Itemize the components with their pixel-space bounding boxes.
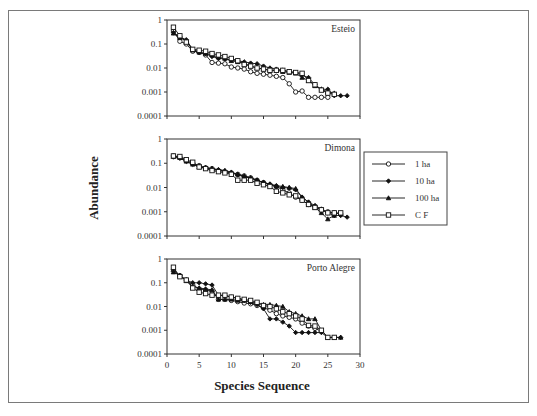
data-point-marker [255,181,259,185]
x-tick-label: 15 [259,360,269,370]
data-point-marker [171,25,175,29]
data-point-marker [268,73,272,77]
data-point-marker [191,47,195,51]
data-point-marker [326,95,330,99]
data-point-marker [281,191,285,195]
data-point-marker [287,193,291,197]
legend-label: C F [415,210,428,220]
data-point-marker [313,205,317,209]
y-tick-label: 0.0001 [137,349,162,359]
data-point-marker [306,323,310,327]
data-point-marker [293,194,297,198]
data-point-marker [216,61,220,65]
data-point-marker [223,62,227,66]
data-point-marker [300,71,304,75]
data-point-marker [326,91,330,95]
data-point-marker [178,274,182,278]
y-tick-label: 0.1 [151,278,162,288]
y-tick-label: 0.0001 [137,111,162,121]
y-tick-label: 0.001 [142,325,162,335]
x-tick-label: 5 [197,360,202,370]
y-tick-label: 0.01 [146,302,162,312]
y-tick-label: 0.0001 [137,231,162,241]
data-point-marker [229,172,233,176]
x-tick-label: 30 [356,360,366,370]
data-point-marker [268,68,272,72]
data-point-marker [326,335,330,339]
x-axis-label: Species Sequence [214,378,310,393]
data-point-marker [287,82,291,86]
data-point-marker [332,92,336,96]
data-point-marker [229,56,233,60]
data-point-marker [261,183,265,187]
data-point-marker [261,72,265,76]
data-point-marker [236,296,240,300]
data-point-marker [236,66,240,70]
legend-marker [386,162,390,166]
data-point-marker [210,51,214,55]
data-point-marker [236,178,240,182]
data-point-marker [178,34,182,38]
data-point-marker [300,198,304,202]
data-point-marker [281,68,285,72]
data-point-marker [306,78,310,82]
data-point-marker [191,286,195,290]
panel-title: Porto Alegre [307,263,355,273]
y-tick-label: 0.1 [151,39,162,49]
data-point-marker [268,184,272,188]
data-point-marker [197,48,201,52]
y-tick-label: 0.001 [142,207,162,217]
data-point-marker [306,202,310,206]
panel-dimona: 10.10.010.0010.0001Dimona [137,134,360,241]
data-point-marker [261,303,265,307]
data-point-marker [293,90,297,94]
data-point-marker [210,293,214,297]
data-point-marker [274,189,278,193]
data-point-marker [216,293,220,297]
y-tick-label: 1 [158,134,163,144]
data-point-marker [236,59,240,63]
data-point-marker [274,74,278,78]
panel-title: Esteio [331,24,355,34]
data-point-marker [326,211,330,215]
data-point-marker [319,208,323,212]
data-point-marker [171,265,175,269]
data-point-marker [255,66,259,70]
y-tick-label: 0.01 [146,183,162,193]
x-tick-label: 25 [323,360,333,370]
data-point-marker [313,324,317,328]
data-point-marker [229,295,233,299]
data-point-marker [255,300,259,304]
data-point-marker [248,178,252,182]
y-tick-label: 1 [158,15,163,25]
data-point-marker [171,154,175,158]
data-point-marker [242,297,246,301]
data-point-marker [300,89,304,93]
data-point-marker [300,317,304,321]
plot-area [167,139,360,236]
data-point-marker [223,293,227,297]
data-point-marker [287,311,291,315]
data-point-marker [332,211,336,215]
data-point-marker [242,178,246,182]
data-point-marker [268,304,272,308]
data-point-marker [242,67,246,71]
data-point-marker [203,166,207,170]
data-point-marker [255,71,259,75]
data-point-marker [203,49,207,53]
legend: 1 ha10 ha100 haC F [364,152,447,225]
data-point-marker [197,290,201,294]
data-point-marker [191,160,195,164]
data-point-marker [242,62,246,66]
data-point-marker [319,328,323,332]
legend-marker [386,213,390,217]
data-point-marker [178,154,182,158]
y-tick-label: 1 [158,254,163,264]
data-point-marker [223,171,227,175]
legend-label: 1 ha [415,159,430,169]
data-point-marker [319,95,323,99]
data-point-marker [261,67,265,71]
panel-title: Dimona [324,143,355,153]
data-point-marker [339,211,343,215]
data-point-marker [248,64,252,68]
